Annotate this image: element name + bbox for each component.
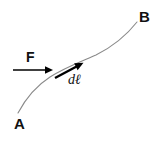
force-arrow-head [45,66,53,74]
displacement-element-label: dℓ [68,73,81,87]
force-vector-label: F [26,50,35,64]
work-along-path-diagram: B A F dℓ [0,0,165,143]
force-arrow [13,66,53,74]
point-a-label: A [14,116,25,131]
point-b-label: B [139,9,150,24]
